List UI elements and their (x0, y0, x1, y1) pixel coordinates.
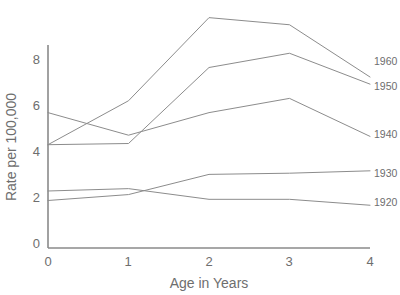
y-tick-label-8: 8 (33, 52, 40, 67)
series-line-1930 (48, 171, 370, 201)
y-tick-label-4: 4 (33, 144, 40, 159)
x-tick-label-0: 0 (44, 254, 51, 269)
series-label-1930: 1930 (374, 167, 398, 179)
y-tick-label-2: 2 (33, 190, 40, 205)
x-tick-label-2: 2 (205, 254, 212, 269)
y-axis-title: Rate per 100,000 (3, 93, 19, 201)
y-tick-label-6: 6 (33, 98, 40, 113)
chart-canvas: 8 6 4 2 0 0 1 2 3 4 Age in Years Rate pe… (0, 0, 400, 295)
series-line-1960 (48, 18, 370, 145)
line-chart: 8 6 4 2 0 0 1 2 3 4 Age in Years Rate pe… (0, 0, 400, 295)
x-tick-label-4: 4 (366, 254, 373, 269)
series-line-1940 (48, 98, 370, 136)
series-line-1950 (48, 53, 370, 144)
series-label-1960: 1960 (374, 55, 398, 67)
series-label-1940: 1940 (374, 128, 398, 140)
x-axis-title: Age in Years (170, 275, 249, 291)
y-tick-label-0: 0 (33, 236, 40, 251)
series-label-1920: 1920 (374, 196, 398, 208)
x-tick-label-3: 3 (285, 254, 292, 269)
x-tick-label-1: 1 (124, 254, 131, 269)
series-label-1950: 1950 (374, 80, 398, 92)
